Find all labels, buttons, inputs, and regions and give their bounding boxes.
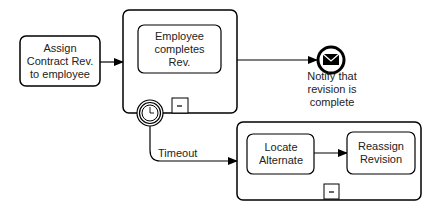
- end-event-label: Notify that revision is complete: [288, 75, 376, 103]
- task-reassign-label: Reassign Revision: [352, 134, 410, 172]
- timeout-label: Timeout: [158, 147, 198, 160]
- task-locate-label: Locate Alternate: [252, 136, 310, 172]
- task-assign-label: Assign Contract Rev. to employee: [22, 38, 98, 84]
- task-employee-label: Employee completes Rev.: [146, 27, 213, 71]
- timer-boundary-event[interactable]: [137, 100, 163, 126]
